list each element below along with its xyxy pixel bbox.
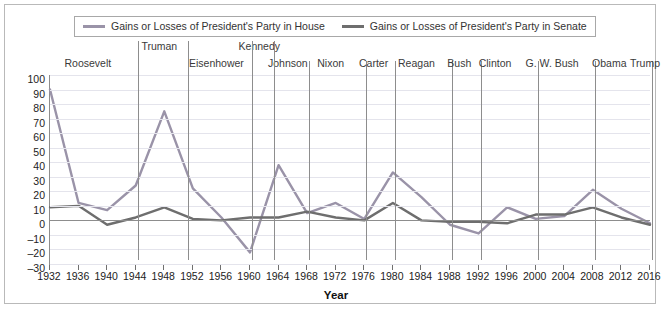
legend-label-house: Gains or Losses of President's Party in …	[111, 21, 325, 32]
president-divider	[595, 61, 596, 260]
x-tick-label: 1964	[266, 271, 289, 282]
y-tick-label: 80	[15, 103, 45, 114]
x-tick-label: 1944	[123, 271, 146, 282]
president-label: Bush	[447, 58, 471, 69]
y-tick-label: –20	[15, 248, 45, 259]
x-tick-label: 1972	[323, 271, 346, 282]
x-tick-label: 2016	[637, 271, 660, 282]
x-tick-label: 1956	[209, 271, 232, 282]
y-tick-label: 10	[15, 205, 45, 216]
legend-entry-senate[interactable]: Gains or Losses of President's Party in …	[342, 21, 587, 32]
president-divider	[481, 61, 482, 260]
gridline	[50, 104, 650, 105]
y-tick-label: 40	[15, 161, 45, 172]
x-tick-label: 2000	[523, 271, 546, 282]
line-swatch-icon	[342, 25, 364, 28]
plot-area	[49, 75, 650, 265]
gridline	[50, 119, 650, 120]
president-divider	[309, 61, 310, 260]
president-label: Obama	[592, 58, 626, 69]
x-tick-label: 1952	[180, 271, 203, 282]
president-label: Clinton	[479, 58, 512, 69]
line-swatch-icon	[83, 25, 105, 28]
president-label: Truman	[141, 41, 177, 52]
president-divider	[395, 61, 396, 260]
x-tick-label: 1948	[152, 271, 175, 282]
x-tick-label: 1976	[352, 271, 375, 282]
y-tick-label: –10	[15, 234, 45, 245]
president-divider	[452, 61, 453, 260]
president-divider	[138, 41, 139, 260]
y-tick-label: 100	[15, 74, 45, 85]
gridline	[50, 177, 650, 178]
y-tick-label: 70	[15, 117, 45, 128]
y-axis-tick-labels: 1009080706050403020100–10–20–30	[11, 75, 45, 264]
x-tick-label: 2012	[609, 271, 632, 282]
chart-container: Gains or Losses of President's Party in …	[4, 4, 656, 304]
zero-line	[50, 220, 650, 221]
y-tick-label: 50	[15, 146, 45, 157]
x-tick-label: 2008	[580, 271, 603, 282]
x-tick-label: 1940	[94, 271, 117, 282]
x-tick-label: 1988	[437, 271, 460, 282]
legend-label-senate: Gains or Losses of President's Party in …	[370, 21, 587, 32]
president-label: Carter	[359, 58, 388, 69]
president-label: Roosevelt	[64, 58, 111, 69]
x-tick-label: 1980	[380, 271, 403, 282]
gridline	[50, 235, 650, 236]
gridline	[50, 90, 650, 91]
gridline	[50, 249, 650, 250]
gridline	[50, 162, 650, 163]
legend-entry-house[interactable]: Gains or Losses of President's Party in …	[83, 21, 325, 32]
president-divider	[188, 41, 189, 260]
president-label: Trump	[630, 58, 660, 69]
president-label: Eisenhower	[189, 58, 244, 69]
president-divider	[538, 61, 539, 260]
president-divider	[252, 41, 253, 260]
series-line-house	[50, 90, 650, 253]
president-label: Reagan	[398, 58, 435, 69]
chart-legend: Gains or Losses of President's Party in …	[74, 16, 596, 37]
x-axis-tick-labels: 1932193619401944194819521956196019641968…	[49, 271, 650, 285]
y-tick-label: 90	[15, 88, 45, 99]
president-label: G. W. Bush	[526, 58, 579, 69]
y-tick-label: 20	[15, 190, 45, 201]
gridline	[50, 75, 650, 76]
gridline	[50, 133, 650, 134]
gridline	[50, 148, 650, 149]
president-divider	[274, 41, 275, 260]
x-tick-label: 1996	[494, 271, 517, 282]
x-tick-label: 1960	[237, 271, 260, 282]
y-tick-label: 30	[15, 176, 45, 187]
x-axis-title: Year	[5, 289, 662, 301]
president-label: Nixon	[317, 58, 344, 69]
x-tick-label: 1932	[37, 271, 60, 282]
gridline	[50, 191, 650, 192]
x-tick-label: 2004	[552, 271, 575, 282]
gridline	[50, 206, 650, 207]
x-tick-label: 1936	[66, 271, 89, 282]
president-divider	[652, 61, 653, 260]
x-tick-label: 1984	[409, 271, 432, 282]
y-tick-label: 0	[15, 219, 45, 230]
president-divider	[366, 61, 367, 260]
y-tick-label: 60	[15, 132, 45, 143]
x-tick-label: 1968	[294, 271, 317, 282]
x-tick-label: 1992	[466, 271, 489, 282]
